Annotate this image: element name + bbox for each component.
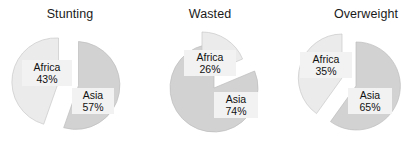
chart-title: Wasted — [140, 7, 280, 21]
pie-chart-wasted — [140, 28, 280, 146]
slice-label-africa-name: Africa — [302, 53, 350, 65]
pie-chart-group: Stunting Africa 43% Asia 57% Wasted Afri… — [0, 0, 420, 146]
slice-label-africa: Africa 26% — [184, 50, 236, 76]
slice-label-asia-name: Asia — [74, 89, 112, 101]
slice-label-africa-value: 26% — [186, 63, 234, 75]
pie-chart-overweight — [280, 28, 420, 146]
pie-chart-stunting — [0, 28, 140, 146]
chart-panel-stunting: Stunting Africa 43% Asia 57% — [0, 0, 140, 146]
chart-title: Stunting — [0, 7, 140, 21]
slice-label-asia-name: Asia — [350, 89, 390, 101]
slice-label-africa-name: Africa — [24, 61, 70, 73]
slice-label-asia-value: 57% — [74, 101, 112, 113]
slice-label-africa-value: 35% — [302, 65, 350, 77]
slice-label-asia-name: Asia — [216, 93, 256, 105]
slice-label-africa-value: 43% — [24, 73, 70, 85]
slice-label-asia: Asia 74% — [214, 92, 258, 118]
slice-label-africa-name: Africa — [186, 51, 234, 63]
slice-label-africa: Africa 43% — [22, 60, 72, 86]
chart-panel-wasted: Wasted Africa 26% Asia 74% — [140, 0, 280, 146]
slice-label-asia: Asia 65% — [348, 88, 392, 114]
chart-panel-overweight: Overweight Africa 35% Asia 65% — [280, 0, 420, 146]
slice-label-asia-value: 65% — [350, 101, 390, 113]
slice-label-asia: Asia 57% — [72, 88, 114, 114]
pie-slice-asia — [64, 42, 120, 130]
slice-label-asia-value: 74% — [216, 105, 256, 117]
slice-label-africa: Africa 35% — [300, 52, 352, 78]
chart-title: Overweight — [280, 7, 420, 21]
